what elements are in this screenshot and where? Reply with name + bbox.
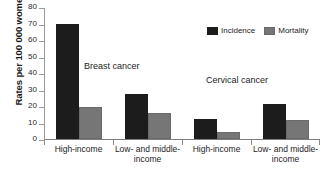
- x-axis-label-line: High-income: [182, 144, 251, 154]
- y-tick: 20: [39, 107, 44, 108]
- y-tick: 40: [39, 74, 44, 75]
- bar-incidence-group-1: [56, 24, 79, 140]
- legend-item-mortality: Mortality: [264, 26, 308, 35]
- x-axis-label-line: income: [251, 154, 320, 164]
- y-tick: 50: [39, 58, 44, 59]
- y-tick: 70: [39, 25, 44, 26]
- x-axis-label-group-1: High-income: [44, 144, 113, 154]
- x-axis-label-group-2: Low- and middle-income: [113, 144, 182, 164]
- chart-figure: Rates per 100 000 women 0102030405060708…: [0, 0, 324, 172]
- y-tick-label: 80: [28, 2, 37, 11]
- bar-incidence-group-2: [125, 94, 148, 139]
- bar-incidence-group-4: [263, 104, 286, 139]
- y-tick-label: 40: [28, 68, 37, 77]
- legend-label-mortality: Mortality: [278, 26, 308, 35]
- bar-mortality-group-4: [286, 120, 309, 139]
- legend-swatch-mortality-icon: [264, 27, 275, 35]
- y-axis-line: [44, 8, 45, 140]
- y-tick-label: 20: [28, 101, 37, 110]
- x-axis-label-line: Low- and middle-: [113, 144, 182, 154]
- legend-item-incidence: Incidence: [207, 26, 255, 35]
- y-tick-label: 50: [28, 52, 37, 61]
- bar-mortality-group-3: [217, 132, 240, 139]
- y-axis-title: Rates per 100 000 women: [13, 0, 24, 106]
- x-axis-label-line: income: [113, 154, 182, 164]
- chart-legend: Incidence Mortality: [207, 26, 308, 35]
- y-tick: 60: [39, 41, 44, 42]
- x-axis-label-group-3: High-income: [182, 144, 251, 154]
- x-axis-label-group-4: Low- and middle-income: [251, 144, 320, 164]
- chart-title-cropped: [0, 0, 324, 3]
- bar-mortality-group-2: [148, 113, 171, 139]
- annotation-breast-cancer: Breast cancer: [84, 61, 140, 71]
- x-axis-label-line: High-income: [44, 144, 113, 154]
- legend-swatch-incidence-icon: [207, 27, 218, 35]
- y-tick-label: 30: [28, 85, 37, 94]
- bar-incidence-group-3: [194, 119, 217, 139]
- y-tick-label: 0: [33, 134, 37, 143]
- y-tick-label: 10: [28, 118, 37, 127]
- y-tick-label: 70: [28, 19, 37, 28]
- y-tick: 30: [39, 91, 44, 92]
- legend-label-incidence: Incidence: [221, 26, 255, 35]
- x-axis-label-line: Low- and middle-: [251, 144, 320, 154]
- y-tick: 10: [39, 124, 44, 125]
- y-tick: 80: [39, 8, 44, 9]
- y-tick-label: 60: [28, 35, 37, 44]
- annotation-cervical-cancer: Cervical cancer: [206, 75, 268, 85]
- bar-mortality-group-1: [79, 107, 102, 139]
